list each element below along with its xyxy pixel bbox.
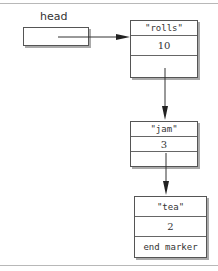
arrow-head-to-rolls-icon [58, 34, 130, 40]
arrow-rolls-to-jam-icon [162, 68, 168, 120]
arrows-layer [0, 0, 218, 271]
arrow-jam-to-tea-icon [163, 153, 169, 195]
